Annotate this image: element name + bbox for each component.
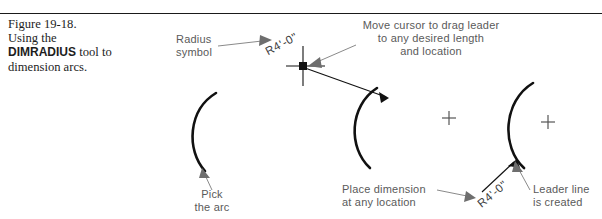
pointer-radius-symbol — [218, 41, 262, 46]
figure-19-18: Figure 19-18. Using the DIMRADIUS tool t… — [0, 0, 602, 219]
leader-line-panel-2 — [305, 68, 386, 97]
leader-line-line-1: Leader line — [533, 183, 590, 195]
move-cursor-line-1: Move cursor to drag leader — [363, 19, 500, 31]
arc-panel-2 — [355, 88, 377, 168]
leader-arrowhead-panel-2 — [379, 92, 389, 103]
annotation-pick-arc: Pickthe arc — [176, 188, 248, 214]
annotation-place-dimension: Place dimensionat any location — [342, 183, 426, 209]
radius-symbol-line-1: Radius — [176, 33, 211, 45]
pick-arc-line-2: the arc — [194, 201, 229, 213]
pointer-place-dimension — [437, 190, 467, 196]
move-cursor-line-3: and location — [400, 45, 462, 57]
center-mark-panel-3 — [541, 115, 555, 129]
annotation-radius-symbol: Radiussymbol — [176, 33, 212, 59]
pick-arc-line-1: Pick — [201, 188, 223, 200]
radius-symbol-line-2: symbol — [176, 46, 212, 58]
annotation-move-cursor: Move cursor to drag leaderto any desired… — [340, 19, 522, 58]
arc-panel-3 — [508, 83, 533, 168]
move-cursor-line-2: to any desired length — [378, 32, 484, 44]
place-dimension-line-1: Place dimension — [342, 183, 426, 195]
center-mark-panel-2 — [442, 111, 456, 125]
annotation-leader-line: Leader lineis created — [533, 183, 590, 209]
arc-panel-1 — [193, 93, 216, 171]
place-dimension-line-2: at any location — [342, 196, 416, 208]
leader-line-line-2: is created — [533, 196, 583, 208]
